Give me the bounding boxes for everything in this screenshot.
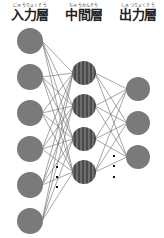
connection-line: [42, 139, 73, 221]
neural-network-diagram: にゅうりょくそう 入力層 ちゅうかんそう 中間層 しゅつりょくそう 出力層: [0, 0, 164, 238]
hidden-layer-label: ちゅうかんそう 中間層: [60, 3, 108, 22]
ellipsis-dot: [113, 176, 115, 178]
hidden-layer-title: 中間層: [60, 8, 108, 22]
ellipsis-dot: [113, 165, 115, 167]
connection-line: [42, 73, 73, 149]
hidden-neuron: [72, 160, 96, 184]
hidden-neuron: [72, 61, 96, 85]
hidden-neuron: [72, 94, 96, 118]
output-layer-title: 出力層: [114, 8, 162, 22]
ellipsis-dot: [56, 176, 58, 178]
ellipsis-dot: [113, 155, 115, 157]
hidden-neuron: [72, 127, 96, 151]
connection-line: [42, 73, 73, 221]
input-neuron: [17, 172, 43, 198]
connection-line: [42, 113, 73, 139]
input-neuron: [17, 136, 43, 162]
network-graphic: [0, 0, 164, 238]
neurons: [17, 28, 150, 234]
input-neuron: [17, 208, 43, 234]
ellipsis-dot: [56, 186, 58, 188]
output-neuron: [126, 111, 150, 135]
connection-line: [95, 89, 127, 106]
ellipsis-dot: [56, 166, 58, 168]
connection-line: [42, 41, 73, 73]
input-neuron: [17, 28, 43, 54]
output-neuron: [126, 77, 150, 101]
input-layer-title: 入力層: [6, 8, 54, 22]
input-neuron: [17, 64, 43, 90]
output-layer-label: しゅつりょくそう 出力層: [114, 3, 162, 22]
output-neuron: [126, 145, 150, 169]
input-layer-label: にゅうりょくそう 入力層: [6, 3, 54, 22]
input-neuron: [17, 100, 43, 126]
